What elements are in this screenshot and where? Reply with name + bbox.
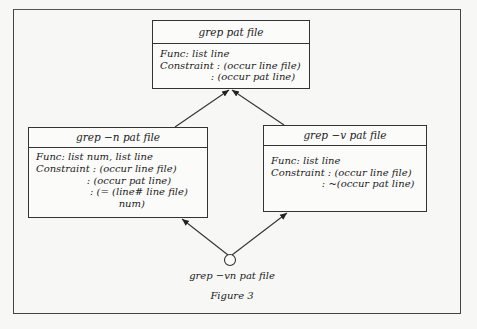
node-body: Func: list line Constraint : (occur line… <box>153 44 309 83</box>
bottom-node-circle <box>225 255 236 266</box>
node-body: Func: list num, list line Constraint : (… <box>29 148 207 210</box>
node-body: Func: list line Constraint : (occur line… <box>264 146 426 190</box>
arrow-bottom-to-left <box>182 219 228 255</box>
constraint-line: : (= (line# line file) <box>36 186 207 198</box>
constraint-line: : ~(occur pat line) <box>271 178 426 190</box>
func-line: Func: list num, list line <box>36 151 207 163</box>
node-title: grep −v pat file <box>264 126 426 146</box>
figure-caption: Figure 3 <box>172 290 292 301</box>
node-grep-n-pat-file: grep −n pat file Func: list num, list li… <box>28 127 208 218</box>
arrow-left-to-top <box>175 90 229 127</box>
constraint-line: Constraint : (occur line file) <box>271 167 426 179</box>
constraint-line: num) <box>36 198 207 210</box>
constraint-line: : (occur pat line) <box>160 71 309 83</box>
node-grep-pat-file: grep pat file Func: list line Constraint… <box>152 20 310 89</box>
constraint-line: Constraint : (occur line file) <box>160 60 309 72</box>
func-line: Func: list line <box>271 155 426 167</box>
func-line: Func: list line <box>160 48 309 60</box>
constraint-line: Constraint : (occur line file) <box>36 163 207 175</box>
node-title: grep −n pat file <box>29 128 207 148</box>
bottom-node-label: grep −vn pat file <box>172 270 292 281</box>
node-grep-v-pat-file: grep −v pat file Func: list line Constra… <box>263 125 427 212</box>
node-title: grep pat file <box>153 21 309 44</box>
arrow-bottom-to-right <box>232 213 287 255</box>
constraint-line: : (occur pat line) <box>36 175 207 187</box>
arrow-right-to-top <box>232 90 284 125</box>
